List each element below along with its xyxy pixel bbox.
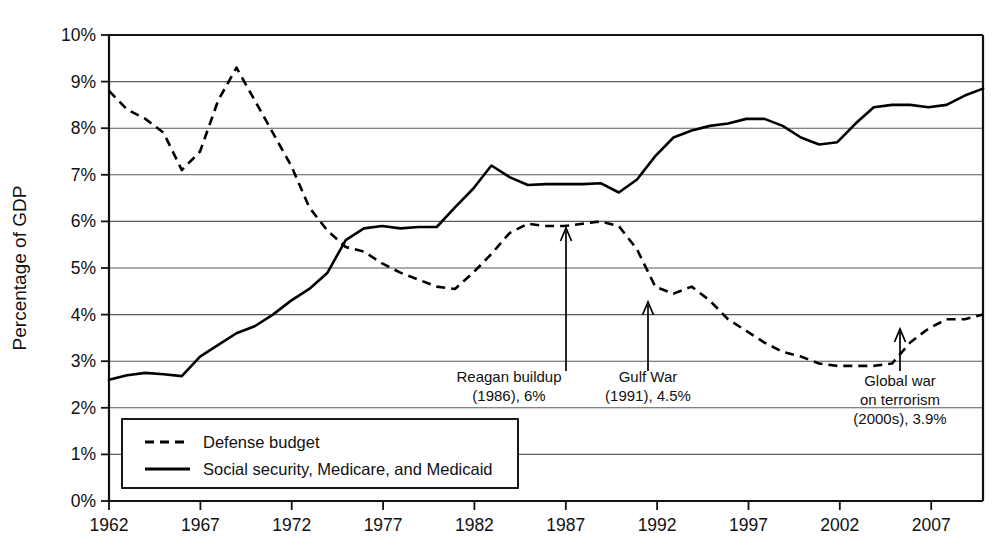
y-tick-label-6: 6% [71, 211, 96, 231]
reagan-anno-line1: Reagan buildup [456, 368, 561, 385]
x-tick-label-2002: 2002 [820, 515, 859, 535]
y-tick-label-7: 7% [71, 165, 96, 185]
y-tick-label-3: 3% [71, 351, 96, 371]
gwot-anno-line3: (2000s), 3.9% [853, 410, 946, 427]
gdp-percentage-line-chart: Percentage of GDP [0, 0, 1007, 558]
gulf-anno-line2: (1991), 4.5% [605, 387, 691, 404]
gulf-anno-line1: Gulf War [619, 368, 678, 385]
x-tick-label-1972: 1972 [272, 515, 311, 535]
y-tick-label-9: 9% [71, 72, 96, 92]
x-tick-label-1962: 1962 [90, 515, 129, 535]
x-tick-label-1977: 1977 [364, 515, 403, 535]
x-tick-label-1987: 1987 [546, 515, 585, 535]
y-tick-label-4: 4% [71, 305, 96, 325]
gwot-anno-line1: Global war [864, 372, 936, 389]
y-axis-title: Percentage of GDP [9, 186, 30, 351]
x-tick-label-1997: 1997 [729, 515, 768, 535]
legend-label-defense-budget: Defense budget [203, 433, 320, 451]
x-tick-label-1992: 1992 [638, 515, 677, 535]
x-tick-label-1982: 1982 [455, 515, 494, 535]
gwot-anno-line2: on terrorism [860, 391, 940, 408]
chart-page: Percentage of GDP [0, 0, 1007, 558]
legend-label-social-security: Social security, Medicare, and Medicaid [203, 460, 493, 478]
y-tick-label-8: 8% [71, 118, 96, 138]
y-tick-label-1: 1% [71, 444, 96, 464]
y-tick-label-2: 2% [71, 398, 96, 418]
x-tick-label-2007: 2007 [912, 515, 951, 535]
chart-legend[interactable]: Defense budget Social security, Medicare… [122, 419, 518, 488]
y-tick-label-10: 10% [61, 25, 96, 45]
reagan-anno-line2: (1986), 6% [472, 387, 545, 404]
y-tick-label-0: 0% [71, 491, 96, 511]
y-tick-label-5: 5% [71, 258, 96, 278]
x-tick-label-1967: 1967 [181, 515, 220, 535]
